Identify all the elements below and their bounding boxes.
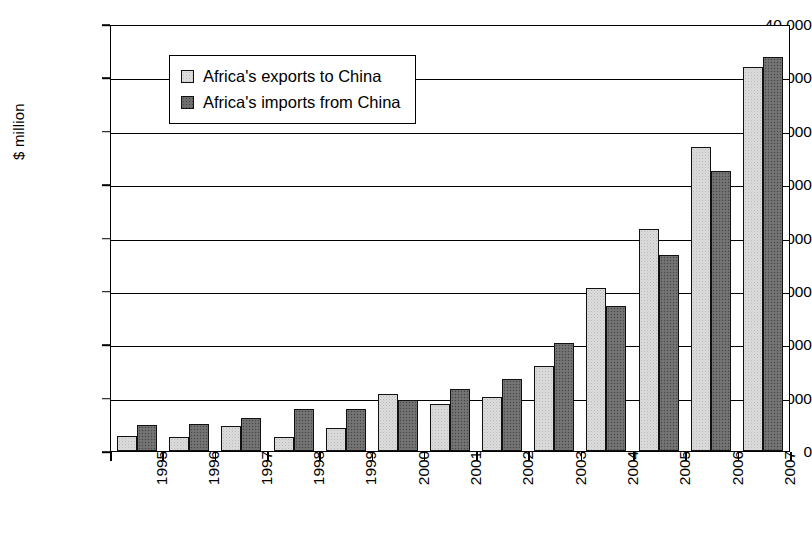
bar-exports xyxy=(639,229,659,451)
bar-group xyxy=(528,26,580,451)
legend-item-exports: Africa's exports to China xyxy=(181,63,401,89)
y-tick-mark xyxy=(102,131,110,133)
bar-imports xyxy=(294,409,314,451)
bar-imports xyxy=(606,306,626,451)
bar-imports xyxy=(659,255,679,451)
bar-exports xyxy=(430,404,450,451)
bar-imports xyxy=(189,424,209,451)
y-tick-mark xyxy=(102,344,110,346)
x-tick-label: 2004 xyxy=(624,451,642,485)
x-tick-label: 1998 xyxy=(310,451,328,485)
bar-group xyxy=(737,26,789,451)
y-axis-title: $ million xyxy=(10,0,27,160)
x-tick-label: 2003 xyxy=(572,451,590,485)
y-tick-mark xyxy=(102,451,110,453)
x-tick-label: 2001 xyxy=(467,451,485,485)
bar-imports xyxy=(763,57,783,451)
bar-group xyxy=(111,26,163,451)
x-tick-label: 2000 xyxy=(415,451,433,485)
bar-imports xyxy=(502,379,522,451)
x-tick-label: 1996 xyxy=(206,451,224,485)
bar-exports xyxy=(117,436,137,451)
y-tick-mark xyxy=(102,238,110,240)
y-tick-mark xyxy=(102,398,110,400)
y-tick-mark xyxy=(102,184,110,186)
legend-swatch-exports xyxy=(181,70,194,83)
y-tick-mark xyxy=(102,78,110,80)
bar-exports xyxy=(221,426,241,451)
bar-chart: $ million 40,00035,00030,00025,00020,000… xyxy=(0,0,812,548)
bar-imports xyxy=(554,343,574,451)
bar-imports xyxy=(346,409,366,451)
legend: Africa's exports to China Africa's impor… xyxy=(169,55,416,124)
bar-imports xyxy=(241,418,261,451)
bar-group xyxy=(580,26,632,451)
bar-exports xyxy=(326,428,346,451)
bar-group xyxy=(685,26,737,451)
bar-exports xyxy=(691,147,711,451)
y-tick-mark xyxy=(102,291,110,293)
x-tick-label: 2005 xyxy=(676,451,694,485)
bar-exports xyxy=(743,67,763,451)
legend-label-exports: Africa's exports to China xyxy=(203,68,381,85)
x-tick-label: 2007 xyxy=(781,451,799,485)
bar-exports xyxy=(534,366,554,451)
bar-exports xyxy=(169,437,189,451)
bar-group xyxy=(633,26,685,451)
bar-exports xyxy=(586,288,606,451)
legend-swatch-imports xyxy=(181,96,194,109)
bar-imports xyxy=(398,400,418,451)
bar-exports xyxy=(482,397,502,451)
x-tick-label: 1999 xyxy=(363,451,381,485)
legend-label-imports: Africa's imports from China xyxy=(203,94,401,111)
legend-item-imports: Africa's imports from China xyxy=(181,89,401,115)
y-tick-mark xyxy=(102,24,110,26)
x-tick-mark xyxy=(110,452,112,461)
x-tick-label: 2006 xyxy=(729,451,747,485)
bar-group xyxy=(424,26,476,451)
bar-imports xyxy=(137,425,157,451)
bar-group xyxy=(476,26,528,451)
bar-exports xyxy=(378,394,398,451)
x-tick-label: 1995 xyxy=(153,451,171,485)
bar-imports xyxy=(450,389,470,451)
bar-exports xyxy=(274,437,294,451)
bar-imports xyxy=(711,171,731,451)
x-tick-label: 2002 xyxy=(520,451,538,485)
x-tick-label: 1997 xyxy=(258,451,276,485)
